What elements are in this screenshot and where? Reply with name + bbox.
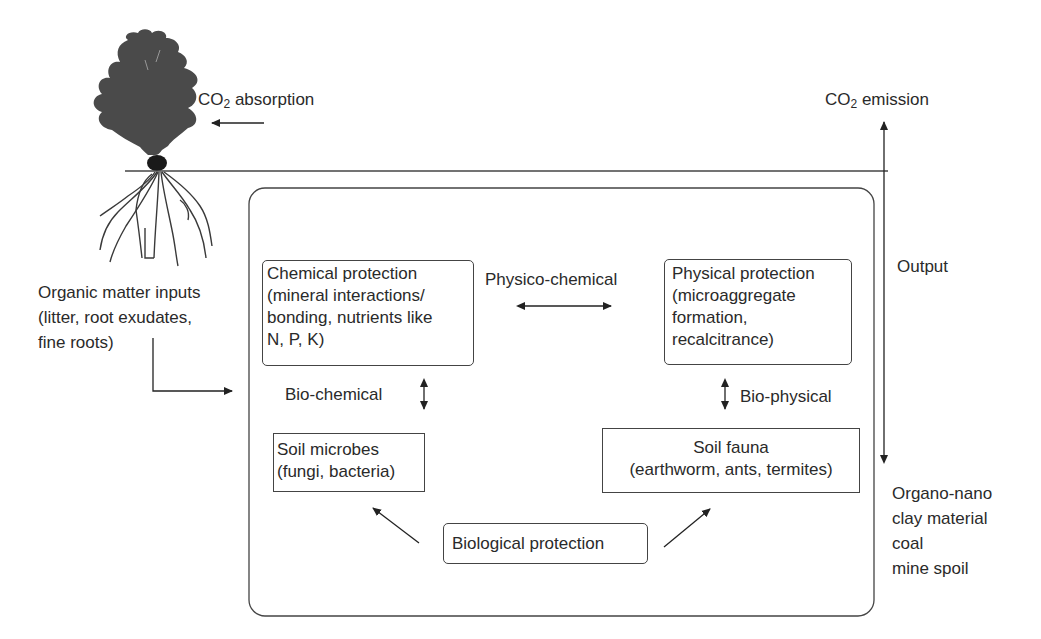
inputs-line-2: (litter, root exudates, — [38, 305, 201, 330]
inputs-line-3: fine roots) — [38, 330, 201, 355]
biological-to-fauna-arrow — [664, 509, 710, 547]
physical-protection-node: Physical protection (microaggregate form… — [664, 259, 852, 365]
chemical-protection-node: Chemical protection (mineral interaction… — [262, 260, 474, 366]
co2-absorption-subscript: 2 — [224, 97, 231, 111]
organic-matter-inputs-label: Organic matter inputs (litter, root exud… — [38, 280, 201, 355]
biological-protection-node: Biological protection — [443, 523, 648, 564]
soil-fauna-node: Soil fauna (earthworm, ants, termites) — [602, 428, 860, 493]
physico-chemical-label: Physico-chemical — [485, 269, 617, 291]
physical-line-4: recalcitrance) — [672, 329, 844, 351]
co2-absorption-suffix: absorption — [230, 90, 314, 109]
roots-icon — [100, 172, 212, 266]
output-label: Output — [897, 256, 948, 278]
co2-emission-subscript: 2 — [851, 97, 858, 111]
biological-line-1: Biological protection — [452, 533, 639, 555]
microbes-line-1: Soil microbes — [277, 439, 421, 461]
chemical-line-4: N, P, K) — [267, 329, 469, 351]
co2-absorption-prefix: CO — [198, 90, 224, 109]
bio-chemical-label: Bio-chemical — [285, 384, 382, 406]
fauna-line-1: Soil fauna — [605, 437, 857, 459]
co2-emission-suffix: emission — [857, 90, 929, 109]
output-product-3: coal — [892, 531, 992, 556]
chemical-line-3: bonding, nutrients like — [267, 307, 469, 329]
biological-to-microbes-arrow — [373, 508, 419, 543]
output-product-4: mine spoil — [892, 556, 992, 581]
chemical-line-1: Chemical protection — [267, 263, 469, 285]
output-products-list: Organo-nano clay material coal mine spoi… — [892, 481, 992, 581]
physical-line-3: formation, — [672, 307, 844, 329]
microbes-line-2: (fungi, bacteria) — [277, 461, 421, 483]
tree-icon — [94, 29, 198, 171]
physical-line-2: (microaggregate — [672, 285, 844, 307]
physical-line-1: Physical protection — [672, 263, 844, 285]
inputs-line-1: Organic matter inputs — [38, 280, 201, 305]
fauna-line-2: (earthworm, ants, termites) — [605, 459, 857, 481]
chemical-line-2: (mineral interactions/ — [267, 285, 469, 307]
bio-physical-label: Bio-physical — [740, 386, 832, 408]
co2-absorption-label: CO2 absorption — [198, 89, 314, 111]
co2-emission-prefix: CO — [825, 90, 851, 109]
output-product-1: Organo-nano — [892, 481, 992, 506]
co2-emission-label: CO2 emission — [825, 89, 929, 111]
soil-microbes-node: Soil microbes (fungi, bacteria) — [273, 433, 425, 492]
output-product-2: clay material — [892, 506, 992, 531]
